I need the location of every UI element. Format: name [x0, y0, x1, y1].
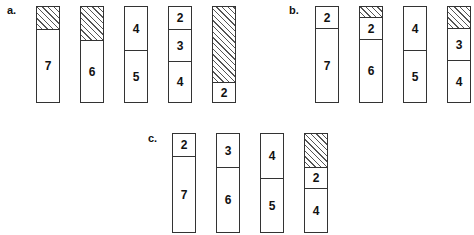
bin: 27: [315, 6, 339, 103]
item-segment: 2: [316, 7, 338, 28]
item-segment: 2: [360, 17, 382, 39]
bin: 26: [359, 6, 383, 103]
item-segment: 4: [404, 7, 426, 50]
item-segment: 5: [261, 178, 283, 232]
item-segment: 5: [404, 50, 426, 102]
bin: 7: [36, 6, 60, 103]
item-segment: 3: [448, 28, 470, 60]
item-segment: 2: [305, 167, 327, 188]
waste-segment: [213, 7, 235, 82]
bin: 234: [168, 6, 192, 103]
item-segment: 6: [360, 39, 382, 102]
item-segment: 3: [217, 134, 239, 167]
item-segment: 7: [316, 28, 338, 102]
waste-segment: [81, 7, 103, 40]
waste-segment: [360, 7, 382, 17]
bin: 34: [447, 6, 471, 103]
item-segment: 6: [217, 167, 239, 232]
item-segment: 2: [213, 82, 235, 102]
item-segment: 7: [37, 29, 59, 102]
bin: 45: [260, 133, 284, 233]
item-segment: 2: [173, 134, 195, 156]
item-segment: 4: [305, 188, 327, 232]
item-segment: 3: [169, 29, 191, 61]
item-segment: 5: [125, 50, 147, 102]
bin: 45: [124, 6, 148, 103]
panel-label: b.: [289, 5, 299, 16]
item-segment: 4: [125, 7, 147, 50]
item-segment: 4: [448, 60, 470, 102]
waste-segment: [37, 7, 59, 29]
panel-label: a.: [7, 5, 16, 16]
bin: 45: [403, 6, 427, 103]
bin: 36: [216, 133, 240, 233]
waste-segment: [448, 7, 470, 28]
item-segment: 2: [169, 7, 191, 29]
bin: 27: [172, 133, 196, 233]
item-segment: 4: [261, 134, 283, 178]
bin: 2: [212, 6, 236, 103]
waste-segment: [305, 134, 327, 167]
bin: 6: [80, 6, 104, 103]
item-segment: 6: [81, 40, 103, 102]
item-segment: 4: [169, 61, 191, 102]
item-segment: 7: [173, 156, 195, 232]
panel-label: c.: [148, 133, 157, 144]
bin: 24: [304, 133, 328, 233]
